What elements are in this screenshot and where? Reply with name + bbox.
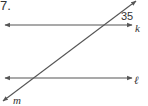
problem-number: 7. bbox=[0, 0, 11, 13]
transversal-m bbox=[3, 1, 136, 101]
line-l-label: ℓ bbox=[134, 74, 139, 86]
parallel-lines-diagram: 7. k 35 ℓ m bbox=[0, 0, 148, 106]
line-m-label: m bbox=[13, 94, 21, 106]
line-k-label: k bbox=[135, 22, 141, 34]
angle-label: 35 bbox=[121, 10, 133, 22]
